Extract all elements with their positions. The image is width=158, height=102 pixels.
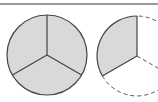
partial-circle-thirds (97, 16, 158, 96)
whole-circle-thirds (7, 15, 87, 95)
dashed-radius-lower-right (137, 56, 158, 76)
fraction-diagram (0, 0, 158, 102)
